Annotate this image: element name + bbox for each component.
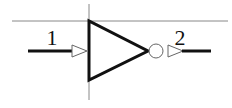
inverter-triangle[interactable] (89, 21, 148, 80)
negation-bubble (149, 44, 163, 58)
inverter-schematic: 1 2 (0, 0, 232, 108)
input-pin-label: 1 (47, 25, 58, 50)
output-pin-label: 2 (175, 25, 186, 50)
input-pin-arrow-icon (72, 45, 87, 57)
